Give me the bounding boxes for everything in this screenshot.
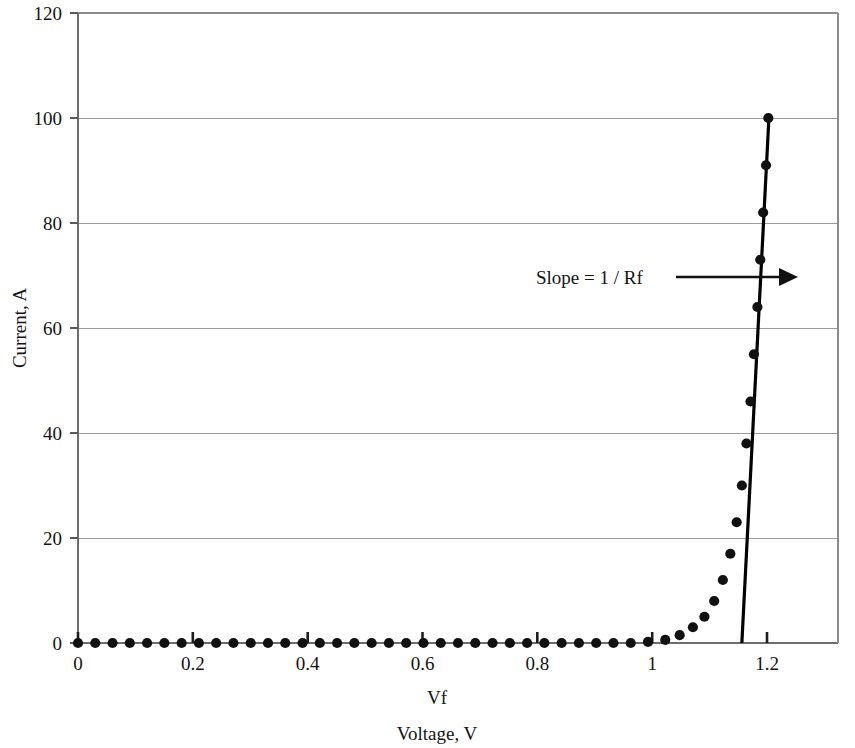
data-point — [675, 630, 685, 640]
data-point — [487, 638, 497, 648]
data-point — [349, 638, 359, 648]
y-tick-label-120: 120 — [34, 3, 63, 24]
data-point — [763, 113, 773, 123]
data-point — [755, 255, 765, 265]
data-point — [732, 517, 742, 527]
data-point — [699, 612, 709, 622]
data-point — [453, 638, 463, 648]
data-point — [159, 638, 169, 648]
x-axis-title-voltage: Voltage, V — [397, 723, 478, 744]
data-point — [737, 480, 747, 490]
data-point — [749, 349, 759, 359]
data-point — [418, 638, 428, 648]
x-tick-label-0-4: 0.4 — [296, 653, 320, 674]
data-point — [539, 638, 549, 648]
data-point — [608, 638, 618, 648]
data-point — [90, 638, 100, 648]
data-point — [688, 622, 698, 632]
y-tick-label-40: 40 — [43, 423, 62, 444]
data-point — [758, 207, 768, 217]
data-point — [626, 638, 636, 648]
data-point — [384, 638, 394, 648]
x-tick-label-0-6: 0.6 — [411, 653, 435, 674]
y-tick-marks — [70, 13, 78, 643]
data-point — [194, 638, 204, 648]
y-tick-label-80: 80 — [43, 213, 62, 234]
y-tick-labels: 120 100 80 60 40 20 0 — [34, 3, 63, 654]
data-point — [725, 549, 735, 559]
y-tick-label-0: 0 — [53, 633, 63, 654]
data-point — [142, 638, 152, 648]
data-point — [367, 638, 377, 648]
data-point — [107, 638, 117, 648]
x-tick-label-0-2: 0.2 — [181, 653, 205, 674]
data-point — [752, 302, 762, 312]
slope-annotation-label: Slope = 1 / Rf — [536, 267, 643, 288]
data-point — [263, 638, 273, 648]
data-point — [228, 638, 238, 648]
data-point — [505, 638, 515, 648]
data-point — [177, 638, 187, 648]
data-point — [280, 638, 290, 648]
data-point — [522, 638, 532, 648]
data-point — [73, 638, 83, 648]
data-point — [332, 638, 342, 648]
data-point — [660, 635, 670, 645]
x-tick-label-1-2: 1.2 — [755, 653, 779, 674]
y-tick-label-20: 20 — [43, 528, 62, 549]
data-point — [470, 638, 480, 648]
data-point — [557, 638, 567, 648]
data-point — [246, 638, 256, 648]
y-tick-label-60: 60 — [43, 318, 62, 339]
data-point — [761, 160, 771, 170]
data-point — [574, 638, 584, 648]
x-axis-title-vf: Vf — [427, 687, 448, 708]
data-point — [591, 638, 601, 648]
x-tick-label-1: 1 — [647, 653, 657, 674]
data-point — [718, 575, 728, 585]
y-tick-label-100: 100 — [34, 108, 63, 129]
data-point — [401, 638, 411, 648]
x-tick-label-0: 0 — [73, 653, 83, 674]
data-point — [745, 396, 755, 406]
data-point — [643, 637, 653, 647]
x-tick-labels: 0 0.2 0.4 0.6 0.8 1 1.2 — [73, 653, 779, 674]
data-point — [315, 638, 325, 648]
data-point — [211, 638, 221, 648]
data-point — [741, 438, 751, 448]
data-point — [297, 638, 307, 648]
y-axis-title: Current, A — [9, 288, 30, 368]
data-point — [709, 596, 719, 606]
chart-figure: 120 100 80 60 40 20 0 0 0.2 0.4 0.6 0.8 … — [0, 0, 855, 748]
iv-curve-chart: 120 100 80 60 40 20 0 0 0.2 0.4 0.6 0.8 … — [0, 0, 855, 748]
data-point — [125, 638, 135, 648]
data-point — [436, 638, 446, 648]
x-tick-label-0-8: 0.8 — [525, 653, 549, 674]
